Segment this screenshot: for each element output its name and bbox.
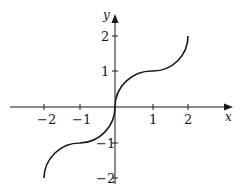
x-tick-label: −2 bbox=[37, 112, 56, 127]
y-axis-arrow-icon bbox=[112, 14, 119, 23]
x-tick-label: −1 bbox=[72, 112, 91, 127]
y-tick-label: −2 bbox=[96, 171, 115, 186]
x-tick-label: 1 bbox=[149, 112, 157, 127]
y-tick-label: 2 bbox=[101, 29, 109, 44]
chart: −2 −1 1 2 2 1 −1 −2 x y bbox=[0, 0, 242, 192]
y-tick-label: 1 bbox=[101, 64, 109, 79]
y-axis-label: y bbox=[102, 8, 110, 22]
x-tick-label: 2 bbox=[184, 112, 192, 127]
x-axis-label: x bbox=[225, 110, 232, 124]
y-tick-label: −1 bbox=[96, 136, 115, 151]
